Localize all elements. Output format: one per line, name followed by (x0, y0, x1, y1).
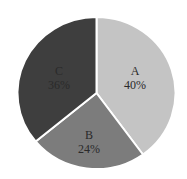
pie-chart: A 40% B 24% C 36% (0, 0, 187, 179)
slice-b-name: B (85, 128, 93, 142)
slice-c-name: C (55, 64, 63, 78)
slice-a-name: A (131, 64, 140, 78)
slice-c-percent: 36% (48, 78, 70, 92)
slice-a-percent: 40% (124, 78, 146, 92)
slice-b-percent: 24% (78, 142, 100, 156)
